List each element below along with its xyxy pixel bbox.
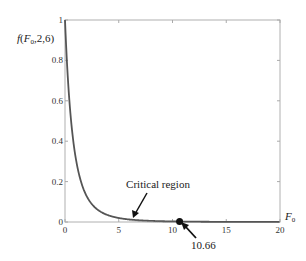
x-tick-label: 5: [117, 225, 122, 235]
x-tick-label: 20: [276, 225, 286, 235]
x-tick-label: 0: [63, 225, 68, 235]
x-tick-label: 15: [222, 225, 232, 235]
x-axis-label: F0: [284, 210, 296, 224]
y-tick-label: 0.8: [52, 55, 64, 65]
critical-region-arrowhead: [132, 210, 139, 218]
critical-region-label: Critical region: [126, 178, 190, 190]
pdf-curve: [65, 20, 279, 222]
critical-region-arrow: [135, 193, 147, 214]
y-tick-label: 0.4: [52, 136, 64, 146]
y-tick-label: 0.2: [52, 177, 63, 187]
y-axis-label: f(F0,2,6): [17, 32, 54, 46]
x-tick-label: 10: [168, 225, 178, 235]
y-tick-label: 0.6: [52, 96, 64, 106]
critical-value-arrow: [185, 226, 196, 238]
plot-frame: [65, 20, 280, 222]
y-tick-label: 1: [59, 15, 64, 25]
critical-value-label: 10.66: [191, 239, 216, 251]
y-tick-label: 0: [59, 217, 64, 227]
f-distribution-chart: 0510152000.20.40.60.81 Critical region 1…: [0, 0, 306, 261]
